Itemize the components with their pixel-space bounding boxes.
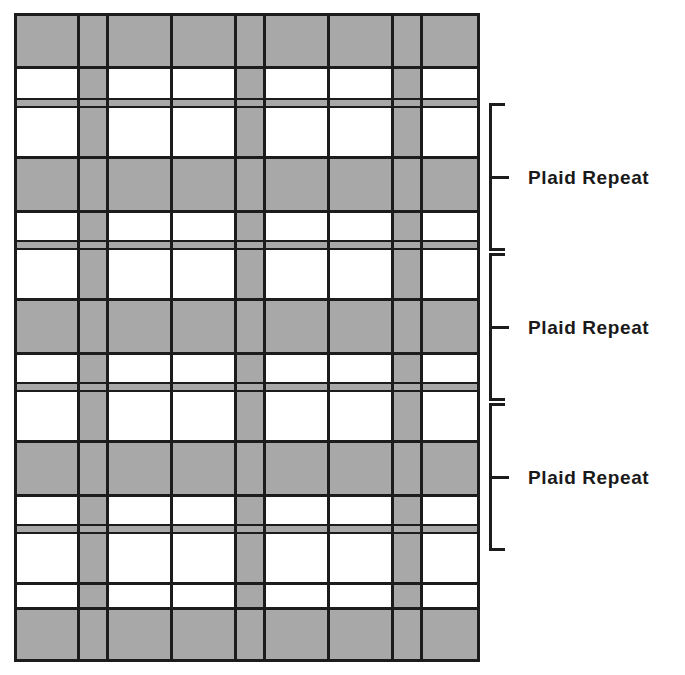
bracket-arm-top	[489, 103, 505, 106]
plaid-hrule-12	[14, 440, 480, 443]
plaid-hrule-9	[14, 352, 480, 355]
plaid-vrule-2	[106, 13, 109, 662]
plaid-figure: Plaid RepeatPlaid RepeatPlaid Repeat	[0, 0, 685, 675]
bracket-arm-top	[489, 403, 505, 406]
plaid-vrule-5	[263, 13, 266, 662]
repeat-label-2: Plaid Repeat	[528, 318, 649, 337]
repeat-label-3: Plaid Repeat	[528, 468, 649, 487]
plaid-hrule-1	[14, 66, 480, 69]
bracket-arm-top	[489, 253, 505, 256]
plaid-hrule-2	[14, 98, 480, 100]
plaid-hrule-3	[14, 106, 480, 108]
plaid-hrule-10	[14, 382, 480, 384]
plaid-column-stripes	[14, 13, 480, 662]
plaid-hrule-14	[14, 524, 480, 526]
bracket-arm-bottom	[489, 548, 505, 551]
plaid-hrule-16	[14, 582, 480, 585]
plaid-column-1	[78, 13, 107, 662]
plaid-hrule-4	[14, 156, 480, 159]
plaid-hrule-6	[14, 240, 480, 242]
plaid-swatch	[14, 13, 480, 662]
plaid-hrule-15	[14, 532, 480, 534]
repeat-bracket-1	[481, 103, 503, 251]
plaid-hrule-8	[14, 298, 480, 301]
plaid-vrule-8	[420, 13, 423, 662]
plaid-hrule-17	[14, 607, 480, 610]
plaid-vrule-7	[391, 13, 394, 662]
repeat-label-1: Plaid Repeat	[528, 168, 649, 187]
plaid-column-7	[392, 13, 421, 662]
plaid-vrule-6	[327, 13, 330, 662]
repeat-bracket-3	[481, 403, 503, 551]
plaid-vrule-3	[170, 13, 173, 662]
plaid-vrule-1	[77, 13, 80, 662]
bracket-arm-bottom	[489, 398, 505, 401]
bracket-tick	[492, 176, 509, 179]
plaid-hrule-11	[14, 390, 480, 392]
plaid-hrule-5	[14, 210, 480, 213]
plaid-vrule-4	[234, 13, 237, 662]
bracket-arm-bottom	[489, 248, 505, 251]
plaid-hrule-13	[14, 494, 480, 497]
bracket-tick	[492, 476, 509, 479]
plaid-hrule-7	[14, 248, 480, 250]
plaid-column-4	[235, 13, 264, 662]
repeat-bracket-2	[481, 253, 503, 401]
bracket-tick	[492, 326, 509, 329]
